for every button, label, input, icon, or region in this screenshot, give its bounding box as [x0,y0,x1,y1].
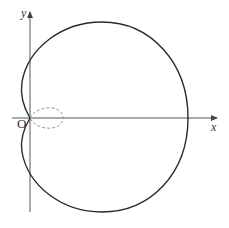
y-axis-label: y [21,6,26,21]
diagram-canvas [0,0,229,228]
outer-curve [21,22,188,212]
origin-label: O [17,116,26,132]
x-axis-label: x [211,120,216,135]
